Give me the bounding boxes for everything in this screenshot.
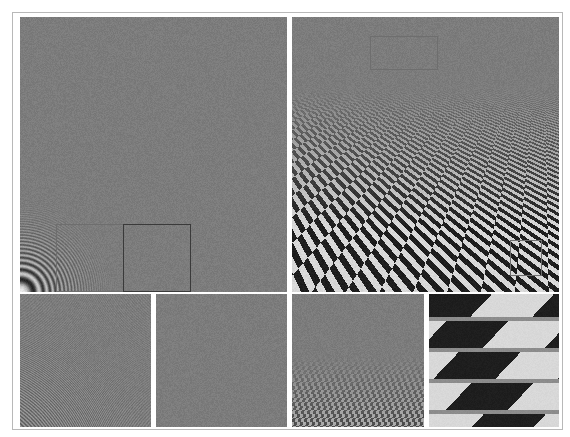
zone-plate-inset-left-panel xyxy=(20,294,151,427)
zone-plate-main-panel xyxy=(20,17,287,292)
zone-plate-inset-right-panel xyxy=(156,294,287,427)
checkerboard-inset-right-panel xyxy=(429,294,559,427)
checkerboard-inset-left-panel xyxy=(292,294,424,427)
checkerboard-main-panel xyxy=(292,17,559,292)
